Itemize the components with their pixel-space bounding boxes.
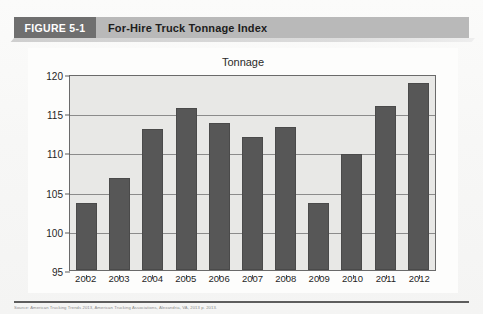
bar [341,154,362,270]
plot-area: 95100105110115120 [69,75,436,271]
x-axis-tick-label: 2002 [72,273,100,284]
x-axis-tick-label: 2011 [372,273,400,284]
y-axis-tick-label: 110 [47,149,63,160]
y-axis-tick-label: 115 [47,110,63,121]
bar [176,108,197,270]
bar [408,83,429,270]
bar [142,129,163,270]
x-axis-tick-label: 2004 [138,273,166,284]
bar [76,203,97,270]
scanned-page: FIGURE 5-1 For-Hire Truck Tonnage Index … [0,0,483,314]
x-axis-tick-label: 2010 [339,273,367,284]
x-axis-tick-label: 2012 [405,273,433,284]
footer-rule [14,301,469,303]
bar [209,123,230,270]
bar [375,106,396,270]
chart-title: Tonnage [28,56,458,68]
y-axis-tick-label: 95 [52,267,63,278]
bar [308,203,329,270]
figure-number-label: FIGURE 5-1 [14,17,96,38]
x-axis-tick-label: 2005 [172,273,200,284]
figure-header-bar: FIGURE 5-1 For-Hire Truck Tonnage Index [14,17,469,38]
x-axis-tick-label: 2003 [105,273,133,284]
figure-source-caption: Source: American Trucking Trends 2013, A… [14,305,474,314]
bar [109,178,130,270]
x-axis-tick-label: 2009 [305,273,333,284]
y-axis-tick-label: 105 [46,188,63,199]
chart-container: Tonnage 95100105110115120 20022003200420… [28,48,458,293]
y-axis-tick-label: 120 [46,71,63,82]
bar-series [70,76,435,270]
x-axis: 2002200320042005200620072008200920102011… [69,273,436,284]
x-axis-tick-label: 2008 [272,273,300,284]
bar [275,127,296,270]
figure-title: For-Hire Truck Tonnage Index [96,17,469,38]
y-axis-tick-label: 100 [46,227,63,238]
x-axis-tick-label: 2006 [205,273,233,284]
x-axis-tick-label: 2007 [238,273,266,284]
bar [242,137,263,270]
